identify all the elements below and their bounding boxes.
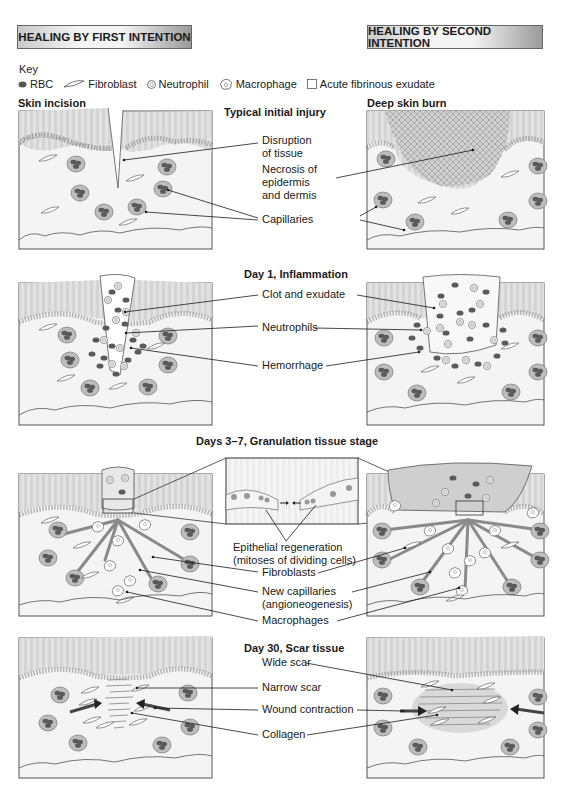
inset-epithelial-regeneration	[134, 458, 456, 524]
panel-deep-burn-day1	[367, 275, 547, 426]
label-new-capillaries: New capillaries (angioneogenesis)	[262, 585, 353, 611]
key-item-rbc: RBC	[18, 78, 53, 90]
macrophage-icon	[219, 78, 233, 90]
panel-skin-incision-day30	[19, 636, 212, 778]
label-wound-contraction: Wound contraction	[262, 703, 354, 716]
leader-dots	[123, 149, 475, 717]
key-label-rbc: RBC	[30, 78, 53, 90]
rbc-icon	[18, 81, 27, 88]
key-item-fibroblast: Fibroblast	[63, 78, 136, 90]
label-clot-and-exudate: Clot and exudate	[262, 288, 345, 301]
stage-title-days3-7: Days 3–7, Granulation tissue stage	[196, 435, 378, 447]
exudate-icon	[307, 79, 317, 89]
label-fibroblasts: Fibroblasts	[262, 566, 316, 579]
header-first-intention: HEALING BY FIRST INTENTION	[17, 25, 192, 49]
label-disruption-of-tissue: Disruption of tissue	[262, 134, 312, 160]
label-narrow-scar: Narrow scar	[262, 681, 321, 694]
header-second-intention: HEALING BY SECOND INTENTION	[367, 25, 543, 49]
key-label-fibroblast: Fibroblast	[88, 78, 136, 90]
stage-title-day1: Day 1, Inflammation	[244, 268, 348, 280]
key-label-exudate: Acute fibrinous exudate	[320, 78, 435, 90]
label-collagen: Collagen	[262, 728, 305, 741]
label-hemorrhage: Hemorrhage	[262, 359, 323, 372]
stage-title-day30: Day 30, Scar tissue	[244, 642, 344, 654]
fibroblast-icon	[63, 80, 85, 88]
key-item-neutrophil: Neutrophil	[147, 78, 209, 90]
key-item-exudate: Acute fibrinous exudate	[307, 78, 435, 90]
panel-skin-incision-initial	[19, 108, 212, 249]
label-macrophages: Macrophages	[262, 614, 329, 627]
panel-title-skin-incision: Skin incision	[18, 97, 86, 109]
neutrophil-icon	[147, 80, 156, 89]
stage-title-initial-injury: Typical initial injury	[224, 106, 326, 118]
key-title: Key	[19, 63, 38, 75]
key-label-macrophage: Macrophage	[236, 78, 297, 90]
panel-deep-burn-days3-7	[367, 463, 549, 616]
label-neutrophils: Neutrophils	[262, 321, 318, 334]
key-legend: RBC Fibroblast Neutrophil Macrophage Acu…	[18, 78, 441, 90]
key-label-neutrophil: Neutrophil	[159, 78, 209, 90]
label-necrosis: Necrosis of epidermis and dermis	[262, 163, 317, 202]
label-wide-scar: Wide scar	[262, 656, 311, 669]
panel-deep-burn-day30	[367, 636, 547, 778]
panel-deep-burn-initial	[367, 111, 547, 249]
panel-title-deep-skin-burn: Deep skin burn	[367, 97, 446, 109]
label-capillaries: Capillaries	[262, 213, 313, 226]
label-epithelial-regeneration: Epithelial regeneration (mitoses of divi…	[233, 541, 356, 567]
panel-skin-incision-days3-7	[19, 467, 212, 616]
key-item-macrophage: Macrophage	[219, 78, 297, 90]
panel-skin-incision-day1	[19, 274, 212, 425]
